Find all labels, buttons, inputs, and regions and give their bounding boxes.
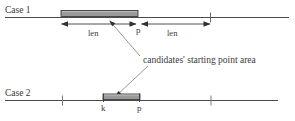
case1-len-left-arrowhead-start bbox=[61, 21, 68, 27]
leader-line-to-case2 bbox=[117, 66, 148, 95]
diagram-canvas: | spanning the bar --> bbox=[0, 0, 295, 121]
case1-len-right-arrowhead-start bbox=[141, 21, 148, 27]
case1-group: | spanning the bar --> bbox=[5, 11, 289, 27]
case1-len-right-arrowhead-end bbox=[204, 21, 211, 27]
case2-point-p-label: p bbox=[137, 104, 142, 113]
case1-len-left-label: len bbox=[88, 29, 98, 38]
case2-point-k-label: k bbox=[101, 104, 106, 113]
case1-point-p-label: p bbox=[136, 26, 141, 35]
case1-len-right-label: len bbox=[167, 29, 177, 38]
annotation-caption: candidates' starting point area bbox=[143, 56, 256, 66]
leader-arrowhead-case1 bbox=[109, 21, 115, 27]
case2-label: Case 2 bbox=[5, 89, 31, 99]
case1-label: Case 1 bbox=[5, 6, 31, 16]
